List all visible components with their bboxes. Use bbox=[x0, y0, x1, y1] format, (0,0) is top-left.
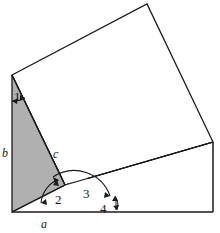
angle-2-label: 2 bbox=[55, 192, 62, 207]
side-a-label: a bbox=[41, 217, 47, 231]
geometry-figure: 1 2 3 4 b c a bbox=[0, 0, 220, 233]
angle-1-label: 1 bbox=[14, 89, 21, 104]
angle-4-label: 4 bbox=[100, 201, 107, 216]
side-b-label: b bbox=[2, 146, 8, 160]
side-c-label: c bbox=[53, 147, 59, 161]
angle-3-label: 3 bbox=[83, 186, 90, 201]
